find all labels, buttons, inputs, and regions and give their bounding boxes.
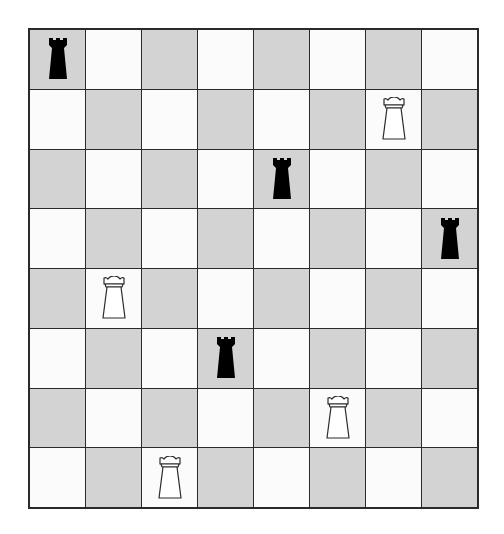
square-r1-c1[interactable]	[30, 30, 85, 89]
square-r4-c1[interactable]	[30, 209, 85, 268]
square-r5-c5[interactable]	[254, 269, 309, 328]
square-r4-c3[interactable]	[142, 209, 197, 268]
square-r1-c5[interactable]	[254, 30, 309, 89]
white-rook-icon[interactable]	[381, 97, 407, 141]
white-rook-icon[interactable]	[157, 456, 183, 500]
square-r1-c7[interactable]	[366, 30, 421, 89]
square-r8-c8[interactable]	[422, 448, 477, 507]
square-r1-c3[interactable]	[142, 30, 197, 89]
square-r1-c2[interactable]	[86, 30, 141, 89]
square-r5-c3[interactable]	[142, 269, 197, 328]
square-r7-c7[interactable]	[366, 389, 421, 448]
square-r2-c2[interactable]	[86, 90, 141, 149]
square-r8-c7[interactable]	[366, 448, 421, 507]
square-r8-c1[interactable]	[30, 448, 85, 507]
square-r6-c3[interactable]	[142, 329, 197, 388]
square-r2-c5[interactable]	[254, 90, 309, 149]
square-r8-c5[interactable]	[254, 448, 309, 507]
square-r3-c6[interactable]	[310, 150, 365, 209]
black-rook-icon[interactable]	[437, 217, 463, 261]
square-r2-c8[interactable]	[422, 90, 477, 149]
square-r5-c6[interactable]	[310, 269, 365, 328]
square-r7-c2[interactable]	[86, 389, 141, 448]
square-r5-c7[interactable]	[366, 269, 421, 328]
square-r4-c4[interactable]	[198, 209, 253, 268]
square-r6-c4[interactable]	[198, 329, 253, 388]
square-r7-c4[interactable]	[198, 389, 253, 448]
square-r7-c3[interactable]	[142, 389, 197, 448]
square-r5-c4[interactable]	[198, 269, 253, 328]
square-r3-c4[interactable]	[198, 150, 253, 209]
chess-board	[28, 28, 479, 509]
square-r2-c4[interactable]	[198, 90, 253, 149]
square-r3-c7[interactable]	[366, 150, 421, 209]
square-r5-c1[interactable]	[30, 269, 85, 328]
square-r3-c3[interactable]	[142, 150, 197, 209]
square-r6-c7[interactable]	[366, 329, 421, 388]
square-r6-c1[interactable]	[30, 329, 85, 388]
square-r4-c6[interactable]	[310, 209, 365, 268]
square-r6-c2[interactable]	[86, 329, 141, 388]
square-r8-c4[interactable]	[198, 448, 253, 507]
square-r3-c1[interactable]	[30, 150, 85, 209]
square-r2-c3[interactable]	[142, 90, 197, 149]
square-r2-c7[interactable]	[366, 90, 421, 149]
square-r6-c6[interactable]	[310, 329, 365, 388]
square-r8-c3[interactable]	[142, 448, 197, 507]
square-r5-c8[interactable]	[422, 269, 477, 328]
black-rook-icon[interactable]	[213, 336, 239, 380]
white-rook-icon[interactable]	[101, 276, 127, 320]
square-r3-c5[interactable]	[254, 150, 309, 209]
square-r7-c8[interactable]	[422, 389, 477, 448]
square-r1-c6[interactable]	[310, 30, 365, 89]
square-r8-c2[interactable]	[86, 448, 141, 507]
square-r2-c6[interactable]	[310, 90, 365, 149]
square-r4-c2[interactable]	[86, 209, 141, 268]
square-r7-c6[interactable]	[310, 389, 365, 448]
square-r3-c2[interactable]	[86, 150, 141, 209]
black-rook-icon[interactable]	[269, 157, 295, 201]
square-r6-c5[interactable]	[254, 329, 309, 388]
square-r7-c1[interactable]	[30, 389, 85, 448]
square-r4-c5[interactable]	[254, 209, 309, 268]
square-r4-c7[interactable]	[366, 209, 421, 268]
square-r2-c1[interactable]	[30, 90, 85, 149]
square-r1-c8[interactable]	[422, 30, 477, 89]
square-r1-c4[interactable]	[198, 30, 253, 89]
white-rook-icon[interactable]	[325, 396, 351, 440]
square-r3-c8[interactable]	[422, 150, 477, 209]
square-r6-c8[interactable]	[422, 329, 477, 388]
square-r7-c5[interactable]	[254, 389, 309, 448]
square-r4-c8[interactable]	[422, 209, 477, 268]
square-r5-c2[interactable]	[86, 269, 141, 328]
square-r8-c6[interactable]	[310, 448, 365, 507]
black-rook-icon[interactable]	[45, 37, 71, 81]
